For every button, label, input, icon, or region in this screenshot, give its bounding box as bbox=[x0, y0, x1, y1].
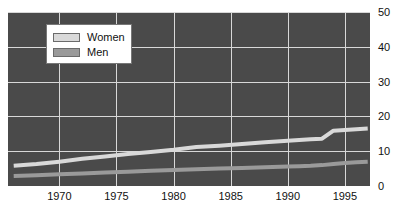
y-tick-20: 20 bbox=[378, 111, 390, 122]
series-line-women bbox=[14, 129, 368, 166]
y-tick-30: 30 bbox=[378, 77, 390, 88]
x-tick-1990: 1990 bbox=[276, 191, 300, 202]
y-tick-40: 40 bbox=[378, 42, 390, 53]
x-tick-1985: 1985 bbox=[218, 191, 242, 202]
x-tick-1970: 1970 bbox=[47, 191, 71, 202]
y-tick-50: 50 bbox=[378, 7, 390, 18]
y-tick-10: 10 bbox=[378, 146, 390, 157]
legend-swatch-men bbox=[53, 48, 80, 57]
series-line-men bbox=[14, 162, 368, 176]
legend-item-men: Men bbox=[53, 45, 131, 60]
legend-label-men: Men bbox=[87, 47, 108, 58]
line-chart: 01020304050 197019751980198519901995 Wom… bbox=[0, 0, 408, 212]
x-tick-1995: 1995 bbox=[333, 191, 357, 202]
y-tick-0: 0 bbox=[378, 181, 384, 192]
x-tick-1980: 1980 bbox=[161, 191, 185, 202]
legend-label-women: Women bbox=[87, 32, 125, 43]
x-tick-1975: 1975 bbox=[104, 191, 128, 202]
legend-swatch-women bbox=[53, 33, 80, 42]
legend-item-women: Women bbox=[53, 30, 131, 45]
legend: Women Men bbox=[46, 24, 132, 64]
